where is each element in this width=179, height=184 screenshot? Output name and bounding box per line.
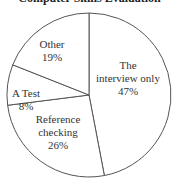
slice-label: Other19% bbox=[39, 38, 64, 63]
pie-chart: Theinterview only47%Referencechecking26%… bbox=[0, 0, 179, 184]
